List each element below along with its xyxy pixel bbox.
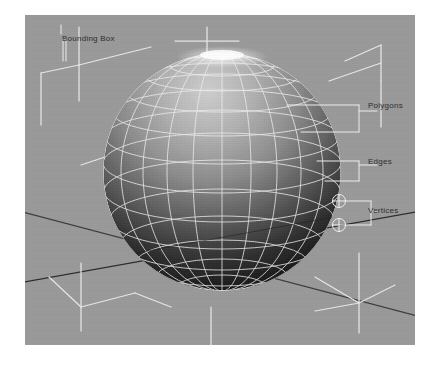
leader-bounding-box (61, 25, 66, 61)
label-polygons: Polygons (368, 101, 403, 110)
vertex-marker (333, 219, 346, 232)
annotation-overlay (25, 15, 415, 345)
label-bounding-box: Bounding Box (62, 34, 115, 43)
vertex-marker-group[interactable] (333, 195, 346, 232)
leader-polygons (287, 105, 377, 132)
label-edges: Edges (368, 157, 392, 166)
3d-viewport[interactable]: Bounding Box Polygons Edges Vertices (25, 15, 415, 345)
vertex-marker (333, 195, 346, 208)
figure-page: Bounding Box Polygons Edges Vertices (0, 0, 435, 366)
label-vertices: Vertices (368, 206, 398, 215)
